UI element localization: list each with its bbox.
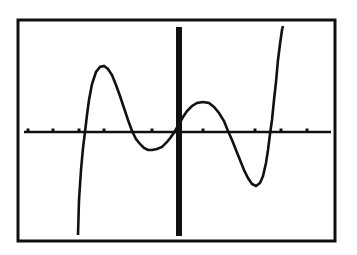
x-tick	[78, 129, 81, 132]
x-tick	[103, 129, 106, 132]
x-tick	[280, 129, 283, 132]
x-tick	[27, 129, 30, 132]
calculator-graph-screen	[0, 0, 357, 255]
x-tick	[52, 129, 55, 132]
x-tick	[254, 129, 257, 132]
x-tick	[202, 129, 205, 132]
x-tick	[306, 129, 309, 132]
x-tick	[151, 129, 154, 132]
